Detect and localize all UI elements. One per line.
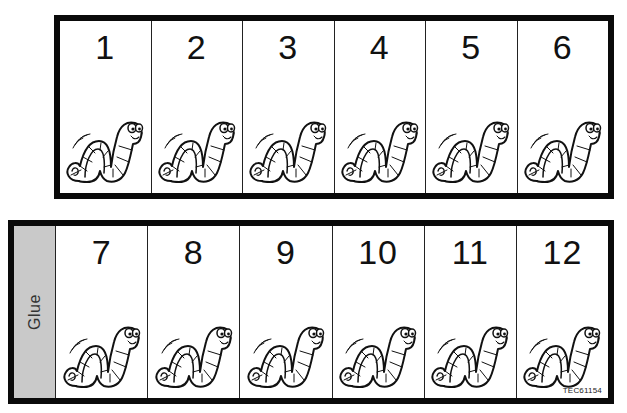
card-number: 8 — [148, 233, 239, 272]
worm-icon — [155, 115, 239, 187]
worm-icon — [429, 115, 513, 187]
worm-icon — [60, 320, 144, 392]
card-number: 6 — [518, 28, 609, 67]
number-card-7: 7 — [56, 226, 148, 398]
card-number: 5 — [426, 28, 517, 67]
top-cards-row: 1 2 — [60, 21, 608, 193]
card-number: 1 — [60, 28, 151, 67]
worm-icon — [521, 115, 605, 187]
worm-icon — [428, 320, 512, 392]
worm-icon — [63, 115, 147, 187]
number-card-2: 2 — [152, 21, 244, 193]
worm-icon — [244, 320, 328, 392]
glue-tab: Glue — [14, 226, 56, 398]
number-card-10: 10 — [333, 226, 425, 398]
worm-icon — [152, 320, 236, 392]
card-number: 3 — [243, 28, 334, 67]
worm-icon — [338, 115, 422, 187]
card-number: 2 — [152, 28, 243, 67]
bottom-cards-row: 7 8 — [56, 226, 608, 398]
card-number: 9 — [240, 233, 331, 272]
card-number: 4 — [335, 28, 426, 67]
number-card-3: 3 — [243, 21, 335, 193]
card-number: 7 — [56, 233, 147, 272]
number-card-8: 8 — [148, 226, 240, 398]
number-card-1: 1 — [60, 21, 152, 193]
worm-icon — [246, 115, 330, 187]
product-code: TEC61154 — [563, 386, 602, 395]
card-number: 10 — [333, 233, 424, 272]
bottom-card-strip: Glue 7 — [8, 220, 614, 404]
card-number: 11 — [425, 233, 516, 272]
top-card-strip: 1 2 — [54, 15, 614, 199]
number-card-5: 5 — [426, 21, 518, 193]
number-card-12: 12 TEC61154 — [517, 226, 608, 398]
number-card-6: 6 — [518, 21, 609, 193]
worm-icon — [336, 320, 420, 392]
number-card-4: 4 — [335, 21, 427, 193]
number-card-11: 11 — [425, 226, 517, 398]
number-card-9: 9 — [240, 226, 332, 398]
card-number: 12 — [517, 233, 608, 272]
worm-icon — [520, 320, 604, 392]
glue-label: Glue — [26, 294, 44, 330]
